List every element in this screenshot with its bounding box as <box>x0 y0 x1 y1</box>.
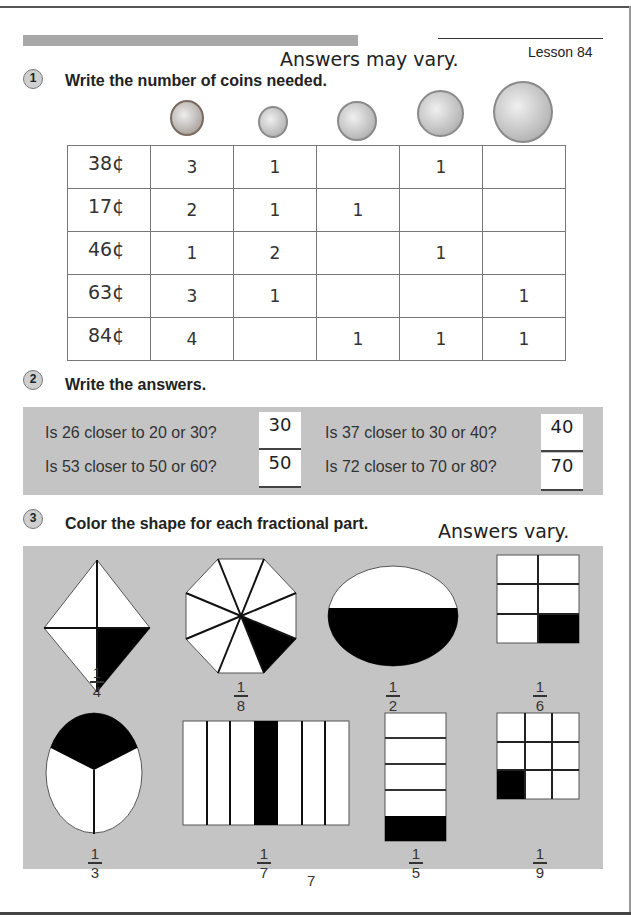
answer-cell[interactable] <box>483 232 566 275</box>
half-dollar-icon <box>493 81 553 143</box>
table-row: 63¢ 3 1 1 <box>68 275 566 318</box>
answer-cell[interactable] <box>317 146 400 189</box>
answer-cell[interactable]: 2 <box>151 189 234 232</box>
page-top-border <box>0 6 631 8</box>
nickel-icon <box>337 101 377 141</box>
question-text: Is 53 closer to 50 or 60? <box>45 458 217 476</box>
fraction-label: 12 <box>383 679 403 713</box>
question-text: Is 37 closer to 30 or 40? <box>325 424 497 442</box>
answers-panel: Is 26 closer to 20 or 30? 30 Is 37 close… <box>23 407 603 495</box>
section-3-title: Color the shape for each fractional part… <box>65 515 368 533</box>
answer-box[interactable]: 70 <box>541 453 583 491</box>
shapes-panel: 14 18 12 16 <box>23 546 603 869</box>
name-bar <box>23 35 358 46</box>
fraction-label: 14 <box>87 665 107 699</box>
page-number: 7 <box>307 872 315 889</box>
answer-cell[interactable] <box>317 232 400 275</box>
amount-cell: 63¢ <box>68 275 151 318</box>
question-text: Is 26 closer to 20 or 30? <box>45 424 217 442</box>
fraction-label: 13 <box>85 846 105 880</box>
grid-3x3-shape[interactable] <box>496 712 580 800</box>
table-row: 84¢ 4 1 1 1 <box>68 318 566 361</box>
section-2-badge: 2 <box>23 370 43 390</box>
answer-cell[interactable] <box>483 146 566 189</box>
strips-5-shape[interactable] <box>384 712 447 842</box>
answer-cell[interactable]: 1 <box>317 189 400 232</box>
ellipse-shape[interactable] <box>326 564 460 668</box>
answer-cell[interactable]: 1 <box>400 232 483 275</box>
fraction-label: 18 <box>231 679 251 713</box>
circle-thirds-shape[interactable] <box>45 712 143 834</box>
answer-box[interactable]: 50 <box>259 450 301 488</box>
answer-cell[interactable]: 2 <box>234 232 317 275</box>
coins-table: 38¢ 3 1 1 17¢ 2 1 1 46¢ 1 2 1 63¢ 3 1 <box>67 145 566 361</box>
table-row: 38¢ 3 1 1 <box>68 146 566 189</box>
answer-cell[interactable]: 1 <box>400 318 483 361</box>
amount-cell: 38¢ <box>68 146 151 189</box>
section-1-title: Write the number of coins needed. <box>65 72 327 90</box>
amount-cell: 84¢ <box>68 318 151 361</box>
amount-cell: 46¢ <box>68 232 151 275</box>
section-2-title: Write the answers. <box>65 376 206 394</box>
answer-cell[interactable]: 1 <box>400 146 483 189</box>
quarter-icon <box>417 90 464 137</box>
section-3-badge: 3 <box>23 509 43 529</box>
answer-cell[interactable]: 1 <box>234 189 317 232</box>
answer-cell[interactable]: 1 <box>151 232 234 275</box>
page-bottom-border <box>0 912 631 915</box>
answer-cell[interactable]: 1 <box>483 318 566 361</box>
amount-cell: 17¢ <box>68 189 151 232</box>
answer-cell[interactable] <box>400 189 483 232</box>
answer-cell[interactable]: 1 <box>483 275 566 318</box>
answer-cell[interactable] <box>400 275 483 318</box>
lesson-label: Lesson 84 <box>528 44 593 60</box>
answer-cell[interactable]: 1 <box>234 146 317 189</box>
answer-box[interactable]: 30 <box>259 412 301 450</box>
fraction-label: 17 <box>254 846 274 880</box>
octagon-shape[interactable] <box>185 558 297 674</box>
answer-cell[interactable]: 4 <box>151 318 234 361</box>
answer-box[interactable]: 40 <box>541 414 583 452</box>
answer-cell[interactable] <box>234 318 317 361</box>
fraction-label: 16 <box>530 679 550 713</box>
strips-7-shape[interactable] <box>182 720 350 826</box>
question-text: Is 72 closer to 70 or 80? <box>325 458 497 476</box>
answer-cell[interactable]: 3 <box>151 275 234 318</box>
answer-cell[interactable]: 3 <box>151 146 234 189</box>
answers-vary-note: Answers vary. <box>438 520 569 542</box>
fraction-label: 19 <box>530 846 550 880</box>
section-1-badge: 1 <box>23 69 43 89</box>
answers-note: Answers may vary. <box>280 48 459 70</box>
answer-cell[interactable] <box>483 189 566 232</box>
date-line <box>438 38 603 39</box>
dime-icon <box>258 106 288 138</box>
answer-cell[interactable] <box>317 275 400 318</box>
answer-cell[interactable]: 1 <box>317 318 400 361</box>
grid-2x3-shape[interactable] <box>496 554 580 644</box>
fraction-label: 15 <box>406 846 426 880</box>
answer-cell[interactable]: 1 <box>234 275 317 318</box>
penny-icon <box>170 100 204 136</box>
table-row: 17¢ 2 1 1 <box>68 189 566 232</box>
table-row: 46¢ 1 2 1 <box>68 232 566 275</box>
